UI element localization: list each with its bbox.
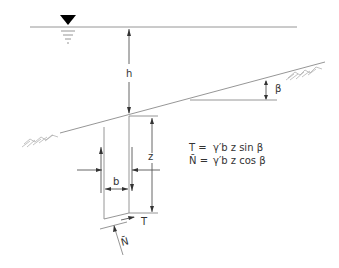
- water-surface: [30, 15, 297, 43]
- soil-slice: [77, 116, 160, 219]
- equations: T = γ′b z sin β N̄ = γ′b z cos β: [188, 142, 266, 166]
- beta-angle: β: [190, 80, 281, 100]
- z-dimension: z: [148, 118, 154, 212]
- t-label: T: [140, 216, 148, 227]
- equation-t-rhs: γ′b z sin β: [213, 142, 263, 153]
- b-label: b: [113, 176, 119, 187]
- n-label: N̄: [119, 235, 129, 248]
- ground-slope: [22, 62, 325, 147]
- base-forces: T N̄: [100, 216, 148, 255]
- h-label: h: [126, 68, 132, 79]
- equation-t-lhs: T =: [188, 142, 207, 153]
- h-dimension: h: [126, 29, 132, 114]
- z-label: z: [148, 151, 153, 162]
- equation-n-lhs: N̄ =: [189, 154, 208, 166]
- beta-label: β: [275, 83, 281, 94]
- equation-n-rhs: γ′b z cos β: [213, 155, 266, 166]
- water-level-triangle-icon: [60, 15, 76, 25]
- b-dimension: b: [105, 176, 128, 191]
- slope-diagram: h β b: [0, 0, 339, 268]
